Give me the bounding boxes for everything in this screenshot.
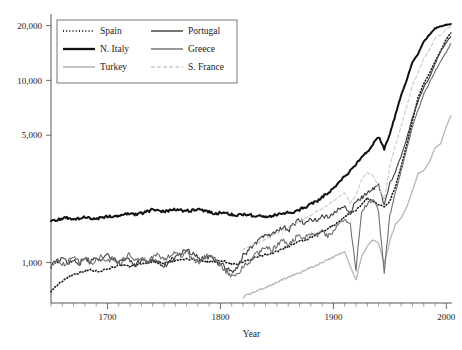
legend-label-turkey: Turkey xyxy=(100,62,127,72)
legend-label-greece: Greece xyxy=(188,44,215,54)
y-tick-label: 1,000 xyxy=(22,258,43,268)
y-axis-ticks: 1,0005,00010,00020,000 xyxy=(17,21,51,268)
x-axis-ticks: 1700180019002000 xyxy=(51,303,456,322)
y-tick-label: 10,000 xyxy=(17,76,42,86)
legend-label-spain: Spain xyxy=(100,26,122,36)
y-tick-label: 5,000 xyxy=(22,130,43,140)
x-tick-label: 1700 xyxy=(98,312,117,322)
gdp-per-capita-line-chart: 1,0005,00010,00020,000 1700180019002000 … xyxy=(0,0,462,350)
series-line-turkey xyxy=(243,116,451,298)
y-tick-label: 20,000 xyxy=(17,21,42,31)
legend-label-portugal: Portugal xyxy=(188,26,221,36)
chart-container: 1,0005,00010,00020,000 1700180019002000 … xyxy=(0,0,462,350)
x-tick-label: 1900 xyxy=(324,312,343,322)
chart-legend: SpainPortugalN. ItalyGreeceTurkeyS. Fran… xyxy=(57,20,237,83)
legend-label-s-france: S. France xyxy=(188,62,224,72)
x-axis-title: Year xyxy=(243,329,261,339)
x-tick-label: 1800 xyxy=(211,312,230,322)
x-tick-label: 2000 xyxy=(437,312,456,322)
legend-label-n-italy: N. Italy xyxy=(100,44,129,54)
